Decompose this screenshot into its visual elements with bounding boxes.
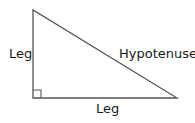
bottom-leg-label: Leg bbox=[96, 102, 119, 115]
hypotenuse-label: Hypotenuse bbox=[119, 47, 195, 60]
left-leg-label: Leg bbox=[9, 47, 32, 60]
right-triangle-diagram: Leg Hypotenuse Leg bbox=[0, 0, 195, 123]
right-angle-marker bbox=[33, 90, 41, 98]
